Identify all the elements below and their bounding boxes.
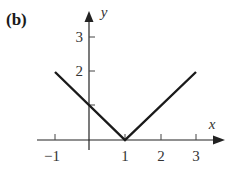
x-axis-label: x (208, 116, 216, 132)
x-axis-arrow-icon (213, 136, 225, 145)
x-tick-label: 2 (157, 148, 165, 164)
data-line (55, 72, 196, 140)
x-tick-label: 1 (121, 148, 129, 164)
y-axis-arrow-icon (85, 11, 94, 22)
x-tick-label: −1 (44, 148, 60, 164)
plot: −1 1 2 3 2 3 x y (0, 0, 237, 169)
y-axis-label: y (99, 4, 108, 20)
y-tick-label: 3 (76, 29, 84, 45)
y-tick-label: 2 (76, 63, 84, 79)
y-ticks (89, 37, 95, 105)
x-tick-label: 3 (192, 148, 200, 164)
